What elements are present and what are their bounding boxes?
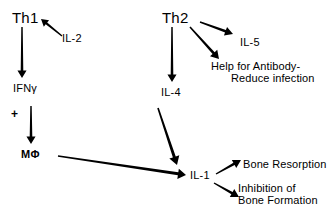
node-label-th2: Th2 bbox=[162, 10, 188, 27]
arrow-ifng-to-mphi bbox=[26, 106, 35, 144]
node-label-ifng: IFNγ bbox=[13, 82, 37, 94]
node-label-mphi: MΦ bbox=[21, 148, 40, 160]
node-label-th1: Th1 bbox=[12, 10, 38, 27]
label-line-2: Reduce infection bbox=[211, 72, 315, 84]
label-line-2: Bone Formation bbox=[238, 194, 318, 206]
cytokine-pathway-diagram: Th1IL-2IFNγ+MΦTh2IL-5IL-4IL-1Help for An… bbox=[0, 0, 331, 215]
node-label-plus: + bbox=[11, 108, 18, 121]
arrow-th2-to-il5 bbox=[200, 21, 233, 35]
arrow-il4-to-il1 bbox=[157, 108, 179, 165]
label-line-1: Inhibition of bbox=[238, 182, 296, 194]
node-label-bone-resorption: Bone Resorption bbox=[243, 158, 326, 170]
node-label-bone-inhibition: Inhibition ofBone Formation bbox=[238, 182, 318, 207]
node-label-il1: IL-1 bbox=[190, 169, 210, 181]
arrow-mphi-to-il1 bbox=[58, 155, 186, 179]
arrow-il1-to-resorption bbox=[216, 160, 241, 175]
node-label-il5: IL-5 bbox=[240, 36, 260, 48]
arrow-th1-to-il2 bbox=[41, 19, 62, 37]
arrow-th2-to-help bbox=[189, 26, 219, 59]
node-label-antibody-help: Help for Antibody-Reduce infection bbox=[211, 60, 315, 85]
label-line-1: Bone Resorption bbox=[243, 158, 326, 170]
label-line-1: Help for Antibody- bbox=[211, 60, 300, 72]
arrow-th2-to-il4 bbox=[167, 27, 176, 82]
arrow-th1-to-ifng bbox=[17, 27, 26, 78]
node-label-il2: IL-2 bbox=[62, 32, 82, 44]
node-label-il4: IL-4 bbox=[161, 86, 181, 98]
arrow-il1-to-inhibition bbox=[214, 182, 239, 197]
